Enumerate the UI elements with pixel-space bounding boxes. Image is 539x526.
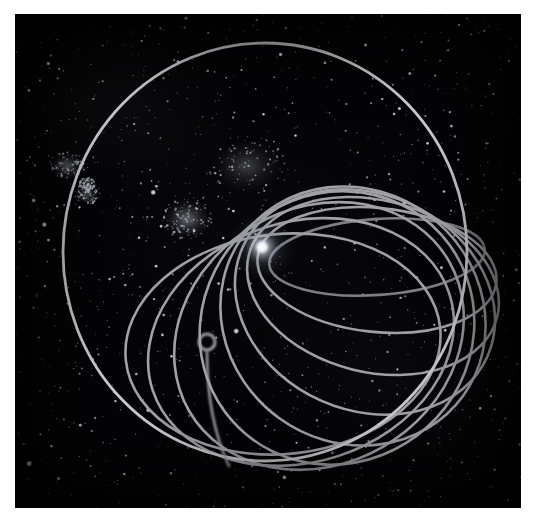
cluster-member-star <box>230 150 232 152</box>
field-star <box>285 27 287 29</box>
field-star <box>138 236 140 238</box>
field-star <box>73 472 74 473</box>
field-star <box>17 238 18 239</box>
cluster-member-star <box>208 217 210 219</box>
cluster-member-star <box>193 219 195 221</box>
field-star <box>389 179 391 181</box>
field-star <box>424 84 425 85</box>
field-star <box>52 217 53 218</box>
field-star <box>291 411 292 412</box>
field-star <box>351 500 353 502</box>
cluster-member-star <box>99 192 101 194</box>
field-star <box>23 254 24 255</box>
field-star <box>427 442 429 444</box>
field-star <box>449 395 450 396</box>
field-star <box>97 161 98 162</box>
field-star <box>145 106 146 107</box>
field-star <box>129 234 130 235</box>
field-star <box>417 140 419 142</box>
cluster-member-star <box>193 232 195 234</box>
field-star <box>350 149 351 150</box>
field-star <box>184 199 185 200</box>
field-star <box>25 86 26 87</box>
cluster-member-star <box>274 161 275 162</box>
field-star <box>124 44 125 45</box>
cluster-member-star <box>276 160 278 162</box>
field-star <box>455 293 456 294</box>
cluster-member-star <box>94 184 96 186</box>
field-star <box>471 105 472 106</box>
field-star <box>38 79 41 82</box>
field-star <box>494 409 496 411</box>
field-star <box>95 96 96 97</box>
field-star <box>149 110 151 112</box>
field-star <box>281 506 283 508</box>
field-star <box>272 21 274 23</box>
field-star <box>93 156 95 158</box>
field-star <box>422 20 423 21</box>
field-star <box>17 355 18 356</box>
field-star <box>46 312 47 313</box>
field-star <box>275 280 276 281</box>
field-star <box>253 150 255 152</box>
field-star <box>106 485 107 486</box>
field-star <box>50 366 51 367</box>
field-star <box>364 500 366 502</box>
cluster-member-star <box>72 168 74 170</box>
cluster-member-star <box>65 173 66 174</box>
field-star <box>76 345 77 346</box>
cluster-member-star <box>93 197 94 198</box>
field-star <box>377 503 378 504</box>
field-star <box>516 363 518 365</box>
field-star <box>252 367 253 368</box>
field-star <box>170 355 173 358</box>
cluster-member-star <box>220 174 221 175</box>
field-star <box>42 92 43 93</box>
field-star <box>417 191 419 193</box>
cluster-member-star <box>92 180 93 181</box>
cluster-member-star <box>197 220 198 221</box>
field-star <box>321 23 322 24</box>
field-star <box>375 358 376 359</box>
cluster-member-star <box>284 163 286 165</box>
cluster-member-star <box>161 220 162 221</box>
field-star <box>200 134 201 135</box>
field-star <box>238 290 239 291</box>
field-star <box>134 372 138 376</box>
field-star <box>354 288 355 289</box>
field-star <box>54 325 55 326</box>
field-star <box>75 141 77 143</box>
field-star <box>148 506 149 507</box>
cluster-member-star <box>256 157 258 159</box>
field-star <box>492 222 494 224</box>
field-star <box>510 38 512 40</box>
field-star <box>157 189 158 190</box>
field-star <box>47 239 50 242</box>
field-star <box>61 494 62 495</box>
field-star <box>477 456 478 457</box>
field-star <box>54 313 55 314</box>
field-star <box>503 423 504 424</box>
field-star <box>31 198 36 203</box>
field-star <box>376 243 378 245</box>
field-star <box>31 181 32 182</box>
cluster-member-star <box>82 182 85 185</box>
field-star <box>21 44 22 45</box>
field-star <box>264 347 265 348</box>
field-star <box>407 309 409 311</box>
cluster-member-star <box>246 153 248 155</box>
cluster-member-star <box>234 182 235 183</box>
field-star <box>159 138 161 140</box>
field-star <box>217 195 219 197</box>
field-star <box>348 282 349 283</box>
field-star <box>130 255 131 256</box>
field-star <box>324 412 325 413</box>
cluster-member-star <box>67 154 69 156</box>
field-star <box>227 288 229 290</box>
cluster-member-star <box>85 200 86 201</box>
cluster-member-star <box>68 165 69 166</box>
field-star <box>135 434 137 436</box>
field-star <box>501 177 502 178</box>
field-star <box>94 476 96 478</box>
cluster-member-star <box>66 177 68 179</box>
